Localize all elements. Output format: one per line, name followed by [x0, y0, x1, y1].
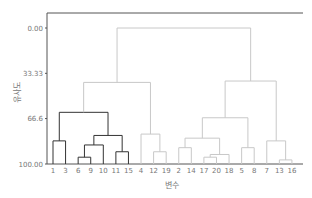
plot-frame [47, 13, 303, 164]
leaf-label: 14 [187, 167, 196, 175]
dendrogram-links [53, 28, 292, 164]
leaf-label: 1 [51, 167, 55, 175]
leaf-label: 9 [88, 167, 92, 175]
y-axis-ticks: 0.0033.3366.6100.00 [19, 25, 48, 169]
leaf-label: 4 [139, 167, 144, 175]
leaf-label: 15 [124, 167, 133, 175]
y-tick-label: 33.33 [23, 70, 43, 78]
leaf-label: 16 [287, 167, 296, 175]
leaf-label: 12 [149, 167, 158, 175]
y-tick-label: 100.00 [19, 161, 44, 169]
leaf-label: 11 [111, 167, 120, 175]
y-axis-title: 유사도 [13, 82, 22, 103]
leaf-label: 18 [225, 167, 234, 175]
leaf-label: 7 [265, 167, 269, 175]
leaf-label: 3 [63, 167, 67, 175]
leaf-label: 5 [239, 167, 243, 175]
leaf-label: 19 [162, 167, 171, 175]
leaf-label: 10 [99, 167, 108, 175]
leaf-label: 6 [76, 167, 81, 175]
x-axis-title: 변수 [165, 180, 179, 190]
leaf-label: 8 [252, 167, 256, 175]
y-tick-label: 66.6 [27, 115, 43, 123]
leaf-label: 20 [212, 167, 221, 175]
leaf-label: 2 [177, 167, 181, 175]
y-tick-label: 0.00 [27, 25, 43, 33]
dendrogram-chart: 0.0033.3366.6100.00 13691011154121921417… [0, 0, 312, 198]
leaf-label: 13 [275, 167, 284, 175]
x-axis-leaf-labels: 1369101115412192141720185871316 [51, 167, 297, 175]
leaf-label: 17 [199, 167, 208, 175]
